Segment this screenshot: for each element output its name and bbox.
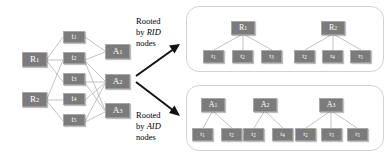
graph-node-R2[interactable]: R2 [22, 92, 47, 107]
aid-panel-a2-leaf-t4[interactable]: t4 [272, 128, 293, 141]
node-subscript: 1 [214, 103, 217, 109]
panel-arrows [136, 44, 180, 116]
node-subscript: 4 [332, 55, 335, 60]
node-subscript: 2 [253, 133, 256, 138]
node-subscript: 3 [119, 108, 122, 114]
rid-panel-root-R2[interactable]: R2 [321, 21, 345, 35]
aid-panel-root-A3[interactable]: A3 [319, 98, 343, 112]
node-subscript: 1 [119, 49, 122, 55]
graph-node-t1[interactable]: t1 [63, 31, 85, 43]
node-subscript: 2 [231, 133, 234, 138]
caption-emphasis: AID [147, 121, 161, 131]
graph-node-A3[interactable]: A3 [105, 103, 130, 118]
aid-panel-root-A1[interactable]: A1 [201, 98, 225, 112]
aid-panel-a2-leaf-t2[interactable]: t2 [243, 128, 264, 141]
rid-panel-leaf-t3[interactable]: t3 [261, 50, 282, 63]
caption-line-3: nodes [136, 132, 161, 143]
node-subscript: 2 [74, 56, 77, 61]
caption-rooted-by-rid: Rooted by RID nodes [136, 16, 161, 49]
graph-node-A1[interactable]: A1 [105, 44, 130, 59]
node-subscript: 2 [36, 97, 39, 103]
caption-line-2: by AID [136, 121, 161, 132]
aid-panel-a1-leaf-t2[interactable]: t2 [221, 128, 242, 141]
node-subscript: 1 [74, 35, 77, 40]
rid-panel-root-R1[interactable]: R1 [231, 21, 255, 35]
rid-panel-leaf-t2[interactable]: t2 [232, 50, 253, 63]
node-subscript: 1 [36, 57, 39, 63]
node-subscript: 2 [305, 133, 308, 138]
aid-panel-a3-leaf-t2[interactable]: t2 [295, 128, 316, 141]
aid-panel-a3-leaf-t5[interactable]: t5 [347, 128, 368, 141]
caption-prefix: by [136, 121, 147, 131]
graph-node-t5[interactable]: t5 [63, 114, 85, 126]
caption-line-1: Rooted [136, 16, 161, 27]
node-subscript: 3 [74, 77, 77, 82]
caption-line-1: Rooted [136, 110, 161, 121]
node-subscript: 3 [331, 133, 334, 138]
caption-emphasis: RID [147, 27, 161, 37]
node-subscript: 2 [119, 79, 122, 85]
graph-node-R1[interactable]: R1 [22, 52, 47, 67]
diagram-canvas: R1 R2 t1 t2 t3 t4 t5 A1 A2 A3 Rooted by … [0, 0, 389, 162]
node-subscript: 4 [282, 133, 285, 138]
aid-rooted-panel [186, 85, 384, 151]
caption-rooted-by-aid: Rooted by AID nodes [136, 110, 161, 143]
node-subscript: 3 [271, 55, 274, 60]
node-subscript: 2 [334, 26, 337, 32]
node-subscript: 4 [74, 97, 77, 102]
rid-panel-leaf-t5[interactable]: t5 [350, 50, 371, 63]
node-subscript: 2 [304, 55, 307, 60]
t-to-aid-edges [85, 37, 105, 122]
graph-node-t2[interactable]: t2 [63, 52, 85, 64]
rid-panel-leaf-t1[interactable]: t1 [203, 50, 224, 63]
node-subscript: 5 [74, 118, 77, 123]
node-subscript: 2 [242, 55, 245, 60]
node-subscript: 5 [357, 133, 360, 138]
caption-prefix: by [136, 27, 147, 37]
node-subscript: 1 [213, 55, 216, 60]
caption-line-3: nodes [136, 38, 161, 49]
rid-to-t-edges [47, 37, 63, 121]
aid-panel-a1-leaf-t1[interactable]: t1 [192, 128, 213, 141]
graph-node-A2[interactable]: A2 [105, 74, 130, 89]
rid-panel-leaf-t4[interactable]: t4 [322, 50, 343, 63]
node-subscript: 3 [332, 103, 335, 109]
node-subscript: 5 [360, 55, 363, 60]
aid-panel-a3-leaf-t3[interactable]: t3 [321, 128, 342, 141]
node-subscript: 1 [244, 26, 247, 32]
aid-panel-root-A2[interactable]: A2 [253, 98, 277, 112]
graph-node-t3[interactable]: t3 [63, 73, 85, 85]
node-subscript: 2 [266, 103, 269, 109]
graph-node-t4[interactable]: t4 [63, 93, 85, 105]
rid-panel-leaf-t2-b[interactable]: t2 [294, 50, 315, 63]
caption-line-2: by RID [136, 27, 161, 38]
node-subscript: 1 [202, 133, 205, 138]
